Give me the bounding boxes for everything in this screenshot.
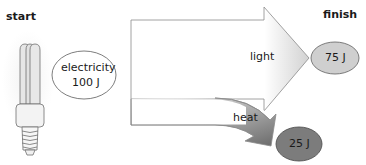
electricity-ellipse bbox=[52, 51, 116, 99]
light-label: light bbox=[250, 50, 274, 63]
start-label: start bbox=[6, 10, 36, 23]
heat-label: heat bbox=[233, 111, 258, 124]
energy-flow-diagram: start finish electricity 100 J light 75 … bbox=[0, 0, 366, 165]
electricity-value: 100 J bbox=[72, 76, 100, 89]
light-value: 75 J bbox=[325, 51, 346, 64]
electricity-label: electricity bbox=[61, 61, 115, 74]
light-arrow bbox=[131, 7, 309, 111]
light-bulb-icon bbox=[16, 44, 44, 155]
heat-value: 25 J bbox=[289, 137, 310, 150]
finish-label: finish bbox=[323, 8, 357, 21]
diagram-canvas bbox=[0, 0, 366, 165]
